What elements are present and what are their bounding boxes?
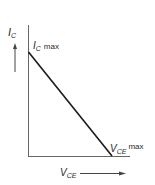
x-axis-label: VCE	[60, 167, 77, 179]
up-arrow-icon	[13, 43, 17, 72]
ic-max-label: ICmax	[33, 40, 59, 52]
y-axis-label: IC	[8, 26, 17, 39]
load-line-diagram: IC ICmax VCEmax VCE	[0, 0, 155, 185]
load-line	[29, 52, 113, 156]
right-arrow-icon	[80, 172, 126, 176]
vce-max-label: VCEmax	[110, 142, 144, 155]
